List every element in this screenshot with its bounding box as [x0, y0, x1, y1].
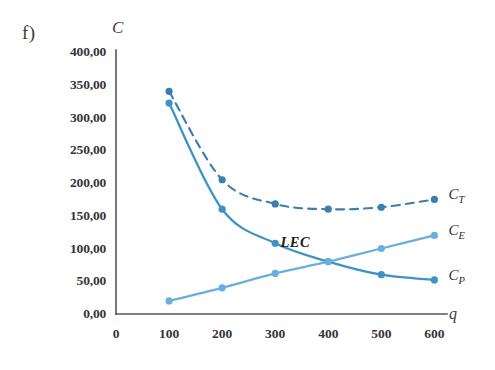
series-markers	[165, 88, 438, 305]
data-point-ct	[431, 196, 438, 203]
series-line-ct	[169, 91, 434, 209]
x-tick-label: 500	[356, 326, 406, 342]
lec-annotation: LEC	[281, 234, 310, 251]
data-point-ce	[431, 232, 438, 239]
axes-lines	[116, 50, 447, 314]
x-tick-label: 0	[91, 326, 141, 342]
x-tick-label: 100	[144, 326, 194, 342]
data-point-ce	[165, 297, 172, 304]
y-tick-label: 400,00	[34, 44, 106, 60]
x-axis-title: q	[449, 305, 457, 323]
series-label-ce-base: C	[448, 222, 458, 238]
y-tick-label: 300,00	[34, 110, 106, 126]
y-tick-label: 100,00	[34, 241, 106, 257]
data-point-cp	[431, 276, 438, 283]
y-tick-label: 350,00	[34, 77, 106, 93]
y-axis-title: C	[112, 18, 123, 38]
data-point-ce	[325, 258, 332, 265]
y-tick-label: 50,00	[34, 273, 106, 289]
x-tick-label: 600	[409, 326, 459, 342]
x-tick-label: 300	[250, 326, 300, 342]
data-point-ce	[378, 245, 385, 252]
data-point-cp	[378, 271, 385, 278]
y-tick-label: 200,00	[34, 175, 106, 191]
series-line-cp	[169, 103, 434, 280]
x-tick-label: 200	[197, 326, 247, 342]
data-point-ct	[219, 176, 226, 183]
data-point-ct	[165, 88, 172, 95]
series-label-cp-base: C	[448, 267, 458, 283]
y-tick-label: 150,00	[34, 208, 106, 224]
data-point-ce	[219, 284, 226, 291]
y-tick-label: 0,00	[34, 306, 106, 322]
series-label-ct-base: C	[448, 186, 458, 202]
panel-label: f)	[22, 22, 35, 44]
data-point-cp	[219, 206, 226, 213]
data-point-ce	[272, 270, 279, 277]
data-point-cp	[165, 99, 172, 106]
series-label-ct: CT	[448, 186, 464, 205]
data-point-cp	[272, 240, 279, 247]
series-label-ce-sub: E	[458, 230, 464, 241]
series-lines	[169, 91, 434, 301]
y-tick-label: 250,00	[34, 142, 106, 158]
series-label-cp: CP	[448, 267, 464, 286]
series-label-cp-sub: P	[458, 275, 464, 286]
series-label-ct-sub: T	[458, 194, 464, 205]
x-tick-label: 400	[303, 326, 353, 342]
data-point-ct	[272, 200, 279, 207]
data-point-ct	[378, 204, 385, 211]
chart-figure: f) C q LEC 0,0050,00100,00150,00200,0025…	[0, 0, 495, 370]
data-point-ct	[325, 206, 332, 213]
series-label-ce: CE	[448, 222, 464, 241]
